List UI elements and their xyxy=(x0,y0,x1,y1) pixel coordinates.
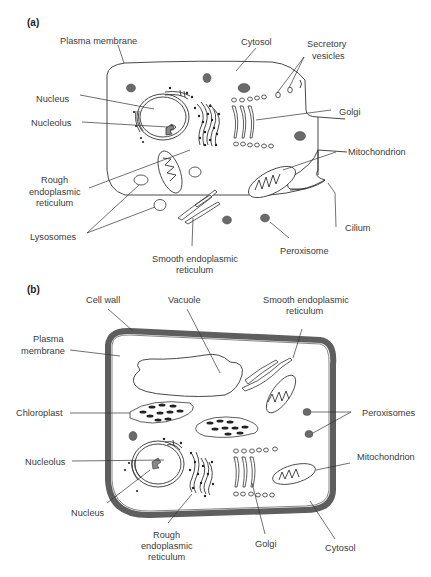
label-lysosomes: Lysosomes xyxy=(30,232,77,242)
panel-a-animal-cell: (a) xyxy=(27,17,406,275)
label-rough-er: Rough xyxy=(41,175,68,185)
label-golgi: Golgi xyxy=(255,539,276,549)
label-golgi: Golgi xyxy=(339,107,360,117)
vesicle xyxy=(189,167,201,177)
chloroplast-left xyxy=(130,402,193,423)
peroxisome-shape xyxy=(203,74,211,83)
label-cilium: Cilium xyxy=(345,223,371,233)
label-plasma-membrane: Plasma membrane xyxy=(60,36,137,46)
animal-mitochondrion-right xyxy=(244,160,300,204)
animal-rough-er xyxy=(194,102,220,146)
svg-text:reticulum: reticulum xyxy=(176,265,214,275)
peroxisome-shape xyxy=(223,216,232,224)
label-nucleolus: Nucleolus xyxy=(25,457,66,467)
label-mitochondrion: Mitochondrion xyxy=(348,147,406,157)
label-cytosol: Cytosol xyxy=(325,543,356,553)
svg-text:reticulum: reticulum xyxy=(286,306,324,316)
dark-body xyxy=(129,432,137,441)
label-smooth-er: Smooth endoplasmic xyxy=(263,295,349,305)
label-rough-er: Rough xyxy=(153,530,180,540)
label-chloroplast: Chloroplast xyxy=(16,408,63,418)
peroxisome-shape xyxy=(295,132,306,141)
label-peroxisomes: Peroxisomes xyxy=(362,408,416,418)
label-nucleolus: Nucleolus xyxy=(31,118,72,128)
svg-text:membrane: membrane xyxy=(21,346,65,356)
svg-text:reticulum: reticulum xyxy=(148,552,186,562)
vacuole xyxy=(133,354,242,396)
svg-text:endoplasmic: endoplasmic xyxy=(29,187,81,197)
label-vacuole: Vacuole xyxy=(168,295,201,305)
panel-a-label: (a) xyxy=(27,17,39,28)
label-mitochondrion: Mitochondrion xyxy=(357,452,415,462)
label-nucleus: Nucleus xyxy=(71,508,105,518)
animal-mitochondrion-left xyxy=(153,148,187,196)
lysosome xyxy=(134,175,148,185)
panel-b-plant-cell: (b) xyxy=(16,284,416,562)
label-secretory-vesicles: Secretory xyxy=(307,39,347,49)
label-nucleus: Nucleus xyxy=(36,94,70,104)
svg-text:reticulum: reticulum xyxy=(36,198,74,208)
svg-text:vesicles: vesicles xyxy=(312,51,345,61)
plant-mitochondrion-lower xyxy=(270,460,317,489)
label-cell-wall: Cell wall xyxy=(86,295,120,305)
peroxisome xyxy=(305,431,313,438)
lysosome xyxy=(154,200,166,211)
peroxisome xyxy=(303,409,311,416)
plant-rough-er xyxy=(189,452,214,497)
peroxisome-shape xyxy=(238,84,250,93)
chloroplast-right xyxy=(196,417,258,438)
plant-golgi xyxy=(234,447,278,497)
peroxisome-shape xyxy=(261,214,270,222)
plant-nucleus xyxy=(124,438,184,492)
peroxisome-shape xyxy=(127,84,136,92)
label-plasma-membrane: Plasma xyxy=(33,334,65,344)
label-peroxisome: Peroxisome xyxy=(280,246,329,256)
cell-diagram: (a) xyxy=(0,0,431,577)
svg-text:endoplasmic: endoplasmic xyxy=(141,541,193,551)
cilium xyxy=(318,117,347,175)
label-smooth-er: Smooth endoplasmic xyxy=(152,254,238,264)
panel-b-label: (b) xyxy=(27,284,40,295)
label-cytosol: Cytosol xyxy=(241,37,272,47)
animal-nucleus xyxy=(133,87,193,143)
